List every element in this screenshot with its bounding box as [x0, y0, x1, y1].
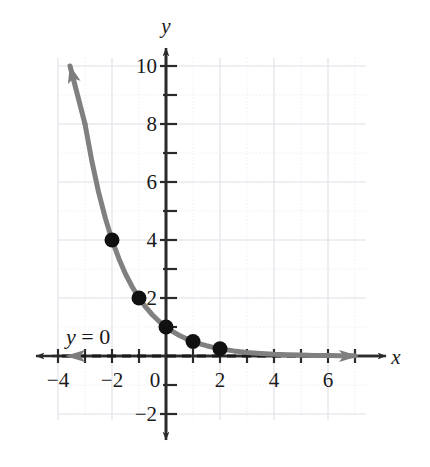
asymptote-label: y = 0: [64, 324, 110, 349]
data-point: [159, 320, 174, 335]
plot-canvas: −4 −2 0 2 4 6 −2 2 4 6 8 10 y x y = 0: [0, 0, 430, 467]
y-tick-label: 10: [136, 54, 157, 78]
x-tick-label: −2: [101, 368, 123, 392]
x-tick-labels: −4 −2 0 2 4 6: [47, 368, 333, 392]
data-point: [132, 291, 147, 306]
grid-major: [58, 58, 366, 420]
y-tick-label: 2: [147, 286, 158, 310]
exponential-decay-graph-figure: −4 −2 0 2 4 6 −2 2 4 6 8 10 y x y = 0: [0, 0, 430, 467]
x-tick-label: 6: [323, 368, 334, 392]
x-tick-label: 0: [150, 368, 161, 392]
y-axis-ticks: [160, 66, 177, 414]
x-axis-label: x: [390, 345, 401, 369]
y-tick-label: 8: [147, 112, 158, 136]
x-tick-label: 2: [215, 368, 226, 392]
data-point: [105, 233, 120, 248]
data-point: [213, 341, 228, 356]
x-tick-label: −4: [47, 368, 70, 392]
y-tick-label: 4: [147, 228, 158, 252]
grid-minor: [58, 58, 366, 420]
x-tick-label: 4: [269, 368, 280, 392]
asymptote-label-variable: y: [64, 324, 76, 349]
y-axis-label: y: [159, 14, 171, 38]
asymptote-label-value: = 0: [76, 324, 110, 349]
y-tick-label: −2: [135, 402, 157, 426]
y-tick-label: 6: [147, 170, 158, 194]
axes: [36, 48, 386, 440]
data-point: [186, 334, 201, 349]
